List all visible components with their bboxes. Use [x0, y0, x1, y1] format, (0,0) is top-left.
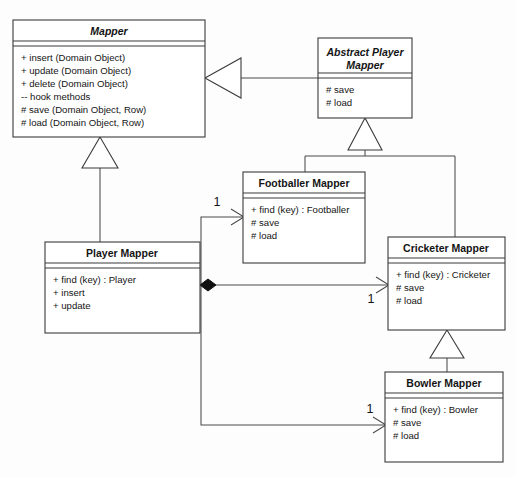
class-member: # save: [326, 84, 354, 95]
class-box-bowler-mapper[interactable]: Bowler Mapper + find (key) : Bowler # sa…: [385, 372, 503, 462]
class-member: # save: [396, 282, 424, 293]
class-member: + delete (Domain Object): [21, 78, 128, 89]
class-title-footballer-mapper: Footballer Mapper: [258, 177, 349, 189]
class-title-mapper: Mapper: [90, 25, 128, 37]
class-member: + find (key) : Bowler: [393, 404, 479, 415]
class-member: -- hook methods: [21, 91, 91, 102]
uml-class-diagram: 1 1 1 Mapper + insert (Domain Object) + …: [0, 0, 516, 477]
class-member: + update: [53, 300, 91, 311]
class-title-cricketer-mapper: Cricketer Mapper: [403, 242, 489, 254]
diagram-canvas: 1 1 1 Mapper + insert (Domain Object) + …: [0, 0, 516, 477]
class-member: # load: [396, 295, 422, 306]
class-member: # load (Domain Object, Row): [21, 117, 144, 128]
class-member: + find (key) : Player: [53, 274, 137, 285]
class-title-player-mapper: Player Mapper: [86, 247, 158, 259]
class-title-bowler-mapper: Bowler Mapper: [406, 377, 481, 389]
composition-player-to-bowler: [201, 285, 386, 433]
class-box-player-mapper[interactable]: Player Mapper + find (key) : Player + in…: [45, 242, 200, 333]
class-member: # load: [251, 230, 277, 241]
class-member: + find (key) : Footballer: [251, 204, 350, 215]
class-box-footballer-mapper[interactable]: Footballer Mapper + find (key) : Footbal…: [243, 172, 365, 263]
class-member: # save: [251, 217, 279, 228]
class-member: + insert (Domain Object): [21, 52, 125, 63]
composition-player-to-cricketer: [212, 277, 389, 293]
class-member: # load: [393, 430, 419, 441]
class-member: # load: [326, 97, 352, 108]
multiplicity-to-bowler: 1: [367, 402, 374, 416]
class-member: + find (key) : Cricketer: [396, 269, 491, 280]
class-title-abstract-player-mapper-line2: Mapper: [346, 59, 384, 71]
class-member: + insert: [53, 287, 85, 298]
class-member: + update (Domain Object): [21, 65, 131, 76]
generalization-bowler-to-cricketer: [430, 330, 464, 372]
composition-diamond-playermapper: [200, 279, 216, 291]
class-box-mapper[interactable]: Mapper + insert (Domain Object) + update…: [13, 20, 205, 137]
multiplicity-to-cricketer: 1: [368, 292, 375, 306]
class-member: # save (Domain Object, Row): [21, 104, 146, 115]
multiplicity-to-footballer: 1: [214, 195, 221, 209]
class-member: # save: [393, 417, 421, 428]
class-box-abstract-player-mapper[interactable]: Abstract Player Mapper # save # load: [318, 38, 412, 118]
class-title-abstract-player-mapper-line1: Abstract Player: [325, 46, 404, 58]
generalization-playermapper-to-mapper: [82, 137, 118, 242]
class-box-cricketer-mapper[interactable]: Cricketer Mapper + find (key) : Crickete…: [388, 237, 505, 330]
composition-player-to-footballer: [201, 209, 244, 285]
generalization-abstractplayer-to-mapper: [205, 58, 318, 98]
